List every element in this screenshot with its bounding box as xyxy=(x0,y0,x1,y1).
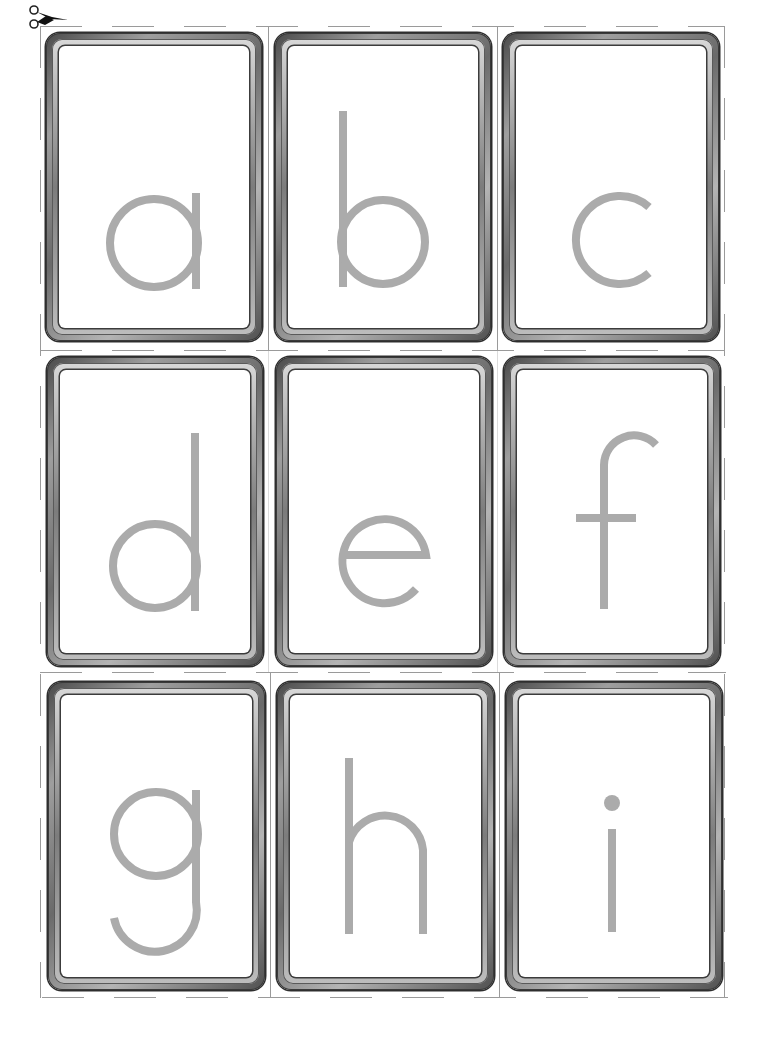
column-divider xyxy=(268,26,269,350)
letter-card-a[interactable]: a xyxy=(46,33,262,341)
column-divider xyxy=(497,350,498,672)
cut-line-top xyxy=(40,26,724,27)
letter-glyph xyxy=(48,682,265,990)
letter-card-d[interactable]: d xyxy=(47,357,263,666)
letter-card-b[interactable]: b xyxy=(275,33,491,341)
letter-glyph xyxy=(276,357,492,666)
letter-glyph xyxy=(504,357,720,666)
letter-glyph xyxy=(506,682,722,990)
letter-card-f[interactable]: f xyxy=(504,357,720,666)
letter-card-h[interactable]: h xyxy=(277,682,494,990)
cut-line-bottom xyxy=(42,997,728,998)
letter-glyph xyxy=(277,682,494,990)
letter-glyph xyxy=(47,357,263,666)
letter-glyph xyxy=(275,33,491,341)
cut-line-row-1 xyxy=(40,350,724,351)
column-divider xyxy=(270,672,271,997)
letter-glyph xyxy=(46,33,262,341)
cut-line-row-2 xyxy=(40,672,726,673)
letter-card-i[interactable]: i xyxy=(506,682,722,990)
flash-card-sheet: a b c d e xyxy=(0,0,760,1037)
column-divider xyxy=(499,672,500,997)
column-divider xyxy=(268,350,269,672)
column-divider xyxy=(497,26,498,350)
letter-glyph xyxy=(503,33,719,341)
letter-card-g[interactable]: g xyxy=(48,682,265,990)
cut-line-right xyxy=(724,26,725,998)
letter-card-e[interactable]: e xyxy=(276,357,492,666)
cut-line-left xyxy=(40,26,41,998)
letter-card-c[interactable]: c xyxy=(503,33,719,341)
